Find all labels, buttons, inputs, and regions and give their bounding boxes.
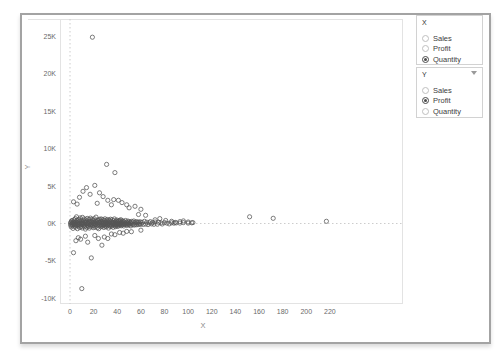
data-point[interactable] bbox=[93, 233, 97, 237]
x-axis-tick-label: 120 bbox=[206, 308, 218, 315]
radio-label: Quantity bbox=[433, 107, 461, 116]
radio-label: Sales bbox=[433, 34, 452, 43]
x-axis-tick-label: 40 bbox=[113, 308, 121, 315]
data-point[interactable] bbox=[271, 216, 275, 220]
data-point[interactable] bbox=[144, 213, 148, 217]
y-axis-tick-label: 10K bbox=[44, 145, 57, 152]
radio-option-y-sales[interactable]: Sales bbox=[422, 85, 482, 96]
radio-icon[interactable] bbox=[422, 87, 429, 94]
radio-option-y-quantity[interactable]: Quantity bbox=[422, 106, 482, 117]
y-axis-tick-label: 25K bbox=[44, 33, 57, 40]
x-axis-tick-label: 60 bbox=[137, 308, 145, 315]
radio-label: Profit bbox=[433, 44, 451, 53]
radio-option-x-quantity[interactable]: Quantity bbox=[422, 54, 482, 65]
radio-option-x-profit[interactable]: Profit bbox=[422, 44, 482, 55]
radio-label: Quantity bbox=[433, 55, 461, 64]
data-point[interactable] bbox=[93, 183, 97, 187]
data-point[interactable] bbox=[77, 195, 81, 199]
data-point[interactable] bbox=[90, 35, 94, 39]
y-axis-tick-label: 15K bbox=[44, 108, 57, 115]
panel-title-text: Y bbox=[422, 71, 427, 78]
data-point[interactable] bbox=[120, 201, 124, 205]
radio-icon[interactable] bbox=[422, 45, 429, 52]
data-point[interactable] bbox=[136, 212, 140, 216]
data-point[interactable] bbox=[100, 243, 104, 247]
radio-icon[interactable] bbox=[422, 35, 429, 42]
y-axis-title: Y bbox=[23, 164, 32, 169]
tableau-worksheet: 25K20K15K10K5K0K-5K-10K02040608010012014… bbox=[0, 0, 501, 357]
radio-label: Profit bbox=[433, 96, 451, 105]
y-axis-tick-label: 5K bbox=[47, 183, 56, 190]
y-axis-tick-label: 0K bbox=[47, 220, 56, 227]
data-point[interactable] bbox=[96, 236, 100, 240]
x-axis-tick-label: 200 bbox=[300, 308, 312, 315]
data-point[interactable] bbox=[248, 215, 252, 219]
data-point[interactable] bbox=[101, 195, 105, 199]
radio-label: Sales bbox=[433, 86, 452, 95]
parameter-panel-x-title: X bbox=[422, 18, 482, 27]
data-point[interactable] bbox=[109, 203, 113, 207]
data-point[interactable] bbox=[88, 192, 92, 196]
radio-icon[interactable] bbox=[422, 108, 429, 115]
radio-icon[interactable] bbox=[422, 56, 429, 63]
x-axis-tick-label: 80 bbox=[161, 308, 169, 315]
x-axis-title: X bbox=[200, 321, 205, 330]
parameter-panel-x: X Sales Profit Quantity bbox=[416, 15, 483, 65]
data-point[interactable] bbox=[106, 198, 110, 202]
x-axis-tick-label: 220 bbox=[324, 308, 336, 315]
panel-title-text: X bbox=[422, 19, 427, 26]
data-point[interactable] bbox=[75, 202, 79, 206]
data-point[interactable] bbox=[127, 206, 131, 210]
parameter-panel-y-title: Y bbox=[422, 70, 482, 79]
x-axis-tick-label: 100 bbox=[182, 308, 194, 315]
data-point[interactable] bbox=[324, 219, 328, 223]
dropdown-caret-icon[interactable] bbox=[471, 71, 477, 75]
data-point[interactable] bbox=[95, 201, 99, 205]
radio-option-x-sales[interactable]: Sales bbox=[422, 33, 482, 44]
data-point[interactable] bbox=[113, 171, 117, 175]
data-point[interactable] bbox=[89, 256, 93, 260]
data-point[interactable] bbox=[139, 228, 143, 232]
data-point[interactable] bbox=[112, 198, 116, 202]
x-axis-tick-label: 20 bbox=[90, 308, 98, 315]
x-axis-tick-label: 160 bbox=[253, 308, 265, 315]
data-point[interactable] bbox=[129, 230, 133, 234]
data-point[interactable] bbox=[83, 234, 87, 238]
data-point[interactable] bbox=[97, 191, 101, 195]
data-point[interactable] bbox=[86, 240, 90, 244]
data-point[interactable] bbox=[125, 229, 129, 233]
y-axis-tick-label: -5K bbox=[45, 257, 56, 264]
data-point[interactable] bbox=[80, 287, 84, 291]
y-axis-tick-label: -10K bbox=[41, 295, 56, 302]
data-point[interactable] bbox=[139, 207, 143, 211]
radio-option-y-profit[interactable]: Profit bbox=[422, 96, 482, 107]
data-point[interactable] bbox=[133, 204, 137, 208]
data-point[interactable] bbox=[84, 186, 88, 190]
data-point[interactable] bbox=[105, 162, 109, 166]
parameter-panel-y: Y Sales Profit Quantity bbox=[416, 67, 483, 118]
data-point[interactable] bbox=[81, 189, 85, 193]
x-axis-tick-label: 140 bbox=[230, 308, 242, 315]
data-point[interactable] bbox=[71, 251, 75, 255]
x-axis-tick-label: 180 bbox=[277, 308, 289, 315]
y-axis-tick-label: 20K bbox=[44, 70, 57, 77]
x-axis-tick-label: 0 bbox=[68, 308, 72, 315]
radio-icon[interactable] bbox=[422, 97, 429, 104]
